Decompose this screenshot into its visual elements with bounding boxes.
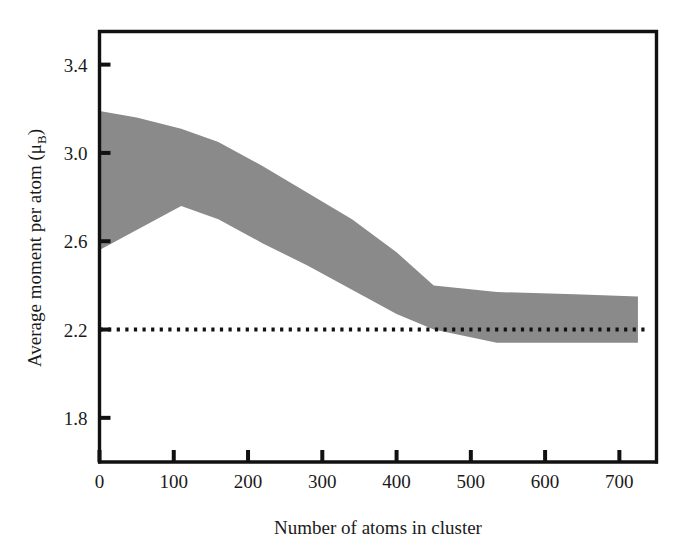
x-tick-label: 500: [457, 471, 486, 492]
y-axis-title-subscript: B: [34, 135, 49, 144]
y-tick-label: 2.6: [64, 231, 88, 252]
moment-vs-cluster-size-chart: 1.82.22.63.03.4 0100200300400500600700 N…: [0, 0, 687, 555]
x-tick-label: 700: [605, 471, 634, 492]
x-tick-label: 200: [234, 471, 263, 492]
y-tick-label: 3.0: [64, 143, 88, 164]
y-axis-title-close: ): [24, 129, 46, 135]
figure-container: 1.82.22.63.03.4 0100200300400500600700 N…: [0, 0, 687, 555]
x-axis-title: Number of atoms in cluster: [274, 517, 483, 538]
y-axis-title-main: Average moment per atom (μ: [24, 144, 46, 367]
y-tick-label: 3.4: [64, 55, 88, 76]
y-axis-title-group: Average moment per atom (μB): [24, 129, 49, 367]
x-tick-label: 100: [160, 471, 189, 492]
y-tick-label: 2.2: [64, 320, 88, 341]
y-axis-tick-labels: 1.82.22.63.03.4: [64, 55, 88, 429]
y-axis-title: Average moment per atom (μB): [24, 129, 49, 367]
x-tick-label: 300: [308, 471, 337, 492]
x-tick-label: 400: [382, 471, 411, 492]
x-tick-label: 0: [95, 471, 105, 492]
x-axis-tick-labels: 0100200300400500600700: [95, 471, 634, 492]
x-tick-label: 600: [531, 471, 560, 492]
y-tick-label: 1.8: [64, 408, 88, 429]
